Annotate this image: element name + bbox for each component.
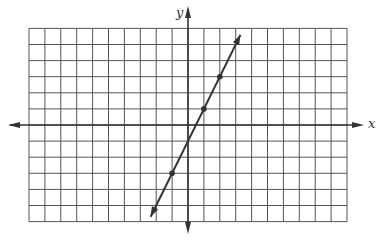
data-point bbox=[169, 171, 175, 177]
x-axis-right-arrow-icon bbox=[352, 122, 364, 128]
axes: y x bbox=[8, 5, 376, 234]
y-axis-up-arrow-icon bbox=[185, 6, 191, 18]
coordinate-plane: y x bbox=[0, 0, 379, 243]
line-arrow-icon bbox=[151, 206, 159, 217]
data-point bbox=[217, 74, 223, 80]
y-axis-label: y bbox=[175, 5, 184, 20]
line-arrow-icon bbox=[233, 35, 241, 46]
data-point bbox=[201, 106, 207, 112]
x-axis-left-arrow-icon bbox=[8, 122, 20, 128]
y-axis-down-arrow-icon bbox=[185, 222, 191, 234]
x-axis-label: x bbox=[368, 116, 376, 131]
